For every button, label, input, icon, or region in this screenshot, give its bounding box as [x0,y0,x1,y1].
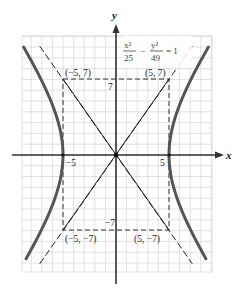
y-axis-label: y [110,9,117,21]
point-label-bottom-right: (5, −7) [134,234,160,245]
point-label-top-right: (5, 7) [145,68,166,79]
equation-x-denominator: 25 [124,53,134,63]
x-axis-arrow-icon [215,152,224,159]
y-axis-arrow-icon [113,24,120,33]
origin-point [114,153,118,157]
equation: x² 25 − y² 49 = 1 [122,36,192,68]
equation-rhs: = 1 [166,46,178,56]
equation-minus: − [140,46,145,56]
tick-label-y-neg7: −7 [105,218,115,228]
x-axis-label: x [225,149,232,161]
point-label-bottom-left: (−5, −7) [65,234,96,245]
equation-y-denominator: 49 [151,53,161,63]
hyperbola-right-branch [169,47,208,259]
hyperbola-figure: y x −5 5 7 −7 (−5, 7) (5, 7) (−5, −7) (5… [0,0,241,292]
tick-label-y-7: 7 [108,82,113,92]
equation-y-numerator: y² [151,40,159,50]
vertex-right [167,153,170,156]
point-label-top-left: (−5, 7) [65,68,91,79]
tick-label-x-neg5: −5 [66,158,76,168]
tick-label-x-5: 5 [160,158,165,168]
vertex-left [61,153,64,156]
plot-canvas: y x −5 5 7 −7 (−5, 7) (5, 7) (−5, −7) (5… [0,0,241,292]
hyperbola-left-branch [24,47,63,259]
equation-x-numerator: x² [124,40,132,50]
